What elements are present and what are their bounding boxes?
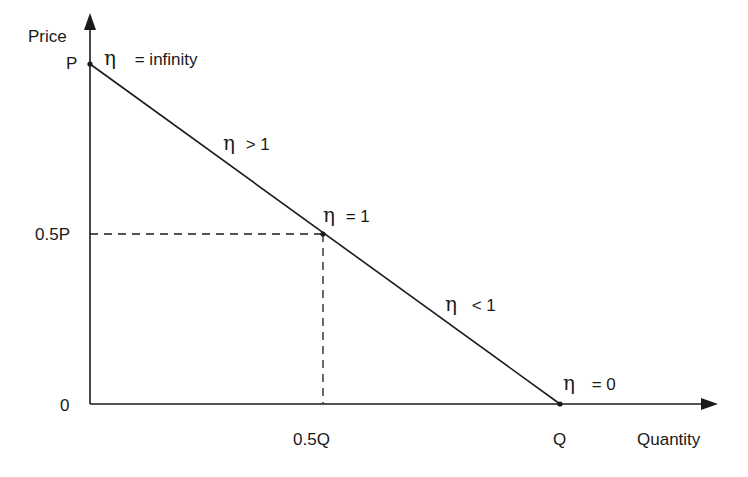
y-axis-label: Price bbox=[28, 28, 67, 45]
eta-symbol: η bbox=[104, 46, 116, 70]
annotation-eta-less-than-one: η < 1 bbox=[445, 294, 496, 314]
eta-symbol: η bbox=[445, 292, 457, 316]
annotation-text: = infinity bbox=[135, 50, 198, 69]
x-axis-arrow-icon bbox=[701, 398, 718, 410]
eta-symbol: η bbox=[323, 203, 335, 227]
y-tick-p: P bbox=[66, 55, 77, 72]
elasticity-diagram bbox=[0, 0, 748, 477]
y-tick-half-p: 0.5P bbox=[35, 226, 70, 243]
annotation-text: = 1 bbox=[346, 207, 370, 226]
annotation-eta-zero: η = 0 bbox=[563, 373, 616, 393]
y-axis-arrow-icon bbox=[84, 13, 96, 30]
point-midpoint bbox=[320, 231, 325, 236]
x-axis-label: Quantity bbox=[637, 431, 700, 448]
point-p bbox=[87, 61, 92, 66]
annotation-text: = 0 bbox=[592, 375, 616, 394]
x-tick-half-q: 0.5Q bbox=[293, 431, 330, 448]
annotation-eta-greater-than-one: η > 1 bbox=[223, 133, 270, 153]
y-tick-origin: 0 bbox=[60, 397, 69, 414]
x-tick-q: Q bbox=[553, 431, 566, 448]
annotation-eta-equals-one: η = 1 bbox=[323, 205, 370, 225]
annotation-text: > 1 bbox=[246, 135, 270, 154]
eta-symbol: η bbox=[563, 371, 575, 395]
point-q bbox=[557, 401, 562, 406]
annotation-eta-infinity: η = infinity bbox=[104, 48, 198, 68]
annotation-text: < 1 bbox=[472, 296, 496, 315]
eta-symbol: η bbox=[223, 131, 235, 155]
